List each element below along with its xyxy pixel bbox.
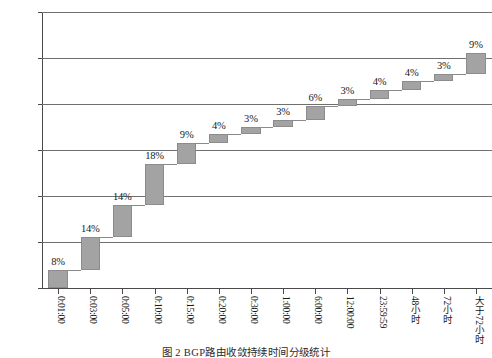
step-connector [421,81,434,82]
step-connector [228,134,241,135]
bar-value-label: 18% [139,151,171,162]
bar [370,90,389,99]
x-tick-mark [476,288,477,294]
x-tick-mark [251,288,252,294]
step-connector [100,237,113,238]
gridline-100% [42,58,492,59]
x-axis-line [42,288,492,289]
bar [402,81,421,90]
step-connector [68,270,81,271]
x-tick-mark [122,288,123,294]
bar-value-label: 9% [171,130,203,141]
step-connector [453,74,466,75]
y-tick-mark [38,242,42,243]
x-tick-mark [347,288,348,294]
x-tick-mark [283,288,284,294]
bar-value-label: 8% [42,257,74,268]
bar-value-label: 14% [106,192,138,203]
x-tick-mark [58,288,59,294]
step-connector [261,127,274,128]
step-connector [164,164,177,165]
x-tick-mark [219,288,220,294]
bar-value-label: 4% [396,68,428,79]
bar-value-label: 14% [74,224,106,235]
figure-container: 020%40%60%80%100%120% 8%14%14%18%9%4%3%3… [0,0,492,358]
y-tick-mark [38,104,42,105]
step-connector [293,120,306,121]
bar-value-label: 3% [267,107,299,118]
x-tick-mark [187,288,188,294]
x-tick-label: 0:05:00 [115,296,129,324]
bar [177,143,196,164]
gridline-60% [42,150,492,151]
y-tick-mark [38,196,42,197]
x-tick-mark [380,288,381,294]
x-tick-label: 48小时 [405,296,419,325]
x-tick-label: 0:03:00 [83,296,97,324]
x-tick-mark [444,288,445,294]
bar [48,270,67,288]
bar [434,74,453,81]
gridline-80% [42,104,492,105]
y-tick-mark [38,150,42,151]
bar-value-label: 4% [364,77,396,88]
bar [466,53,485,74]
bar [306,106,325,120]
bar-value-label: 9% [460,40,492,51]
x-tick-label: 23:59:59 [373,296,387,328]
x-tick-label: 72小时 [437,296,451,325]
x-tick-label: 0:01:00 [51,296,65,324]
x-tick-label: 大于72小时 [469,296,483,344]
step-connector [196,143,209,144]
x-tick-label: 6:00:00 [308,296,322,324]
x-tick-label: 12:00:00 [340,296,354,328]
figure-caption: 图 2 BGP路由收敛持续时间分级统计 [0,344,492,358]
gridline-20% [42,242,492,243]
plot-area: 020%40%60%80%100%120% 8%14%14%18%9%4%3%3… [42,12,492,288]
bar [338,99,357,106]
step-connector [132,205,145,206]
bar-value-label: 6% [299,93,331,104]
bar [113,205,132,237]
y-tick-mark [38,12,42,13]
x-tick-mark [412,288,413,294]
x-tick-label: 0:15:00 [180,296,194,324]
bar [241,127,260,134]
bar [273,120,292,127]
step-connector [389,90,402,91]
x-tick-label: 0:30:00 [244,296,258,324]
gridline-120% [42,12,492,13]
x-tick-mark [315,288,316,294]
bar-value-label: 3% [331,86,363,97]
x-tick-label: 0:20:00 [212,296,226,324]
bar-value-label: 4% [203,121,235,132]
bar-value-label: 3% [428,61,460,72]
x-tick-label: 0:10:00 [148,296,162,324]
step-connector [357,99,370,100]
x-tick-label: 1:00:00 [276,296,290,324]
bar [81,237,100,269]
x-tick-mark [155,288,156,294]
y-tick-mark [38,58,42,59]
bar-value-label: 3% [235,114,267,125]
bar [209,134,228,143]
bar [145,164,164,205]
x-tick-mark [90,288,91,294]
step-connector [325,106,338,107]
